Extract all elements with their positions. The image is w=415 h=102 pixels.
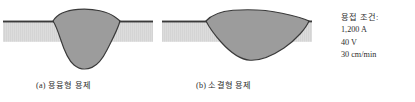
welding-conditions-block: 용접 조건: 1,200 A 40 V 30 cm/min bbox=[341, 12, 415, 62]
welding-conditions-title: 용접 조건: bbox=[341, 12, 415, 24]
welding-travel-speed-value: 30 cm/min bbox=[341, 49, 415, 61]
welding-voltage-value: 40 V bbox=[341, 37, 415, 49]
caption-panel-a: (a) 용융형 용제 bbox=[36, 78, 91, 90]
caption-panel-b: (b) 소결형 용제 bbox=[196, 78, 252, 90]
welding-current-value: 1,200 A bbox=[341, 24, 415, 36]
